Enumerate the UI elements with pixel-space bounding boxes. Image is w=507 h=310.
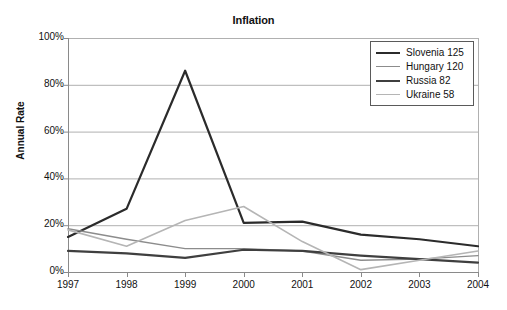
legend-item: Ukraine 58 [376, 87, 468, 101]
legend-item: Russia 82 [376, 73, 468, 87]
legend-line-swatch [376, 61, 400, 71]
legend-line-swatch [376, 89, 400, 99]
chart-legend: Slovenia 125Hungary 120Russia 82Ukraine … [370, 41, 474, 106]
legend-item: Slovenia 125 [376, 45, 468, 59]
legend-label: Russia 82 [406, 75, 450, 86]
legend-label: Hungary 120 [406, 61, 463, 72]
legend-item: Hungary 120 [376, 59, 468, 73]
legend-label: Ukraine 58 [406, 89, 454, 100]
chart-figure: Inflation Annual Rate 100%80%60%40%20%0%… [0, 0, 507, 310]
legend-line-swatch [376, 47, 400, 57]
legend-line-swatch [376, 75, 400, 85]
legend-label: Slovenia 125 [406, 47, 464, 58]
